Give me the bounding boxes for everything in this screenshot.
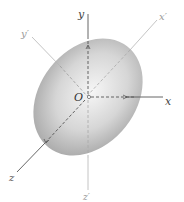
label-x-prime: x′ <box>159 11 168 22</box>
origin-point <box>87 95 90 98</box>
label-x: x <box>165 95 172 108</box>
label-z: z <box>8 172 15 183</box>
label-y: y <box>77 8 85 21</box>
label-y-prime: y′ <box>20 28 30 39</box>
label-origin: O <box>74 91 83 104</box>
label-z-prime: z′ <box>82 192 90 202</box>
ellipsoid-diagram: y x z y′ x′ z′ O <box>0 0 184 202</box>
